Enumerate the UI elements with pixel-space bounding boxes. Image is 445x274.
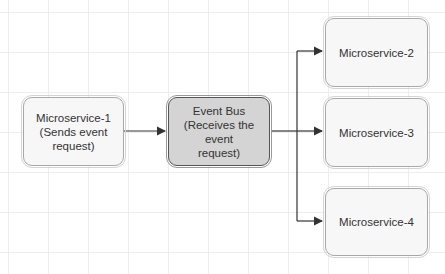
node-label: Event Bus (Receives the event request) <box>169 104 269 160</box>
node-label: Microservice-2 <box>339 46 414 60</box>
node-label: Microservice-4 <box>339 215 414 229</box>
node-microservice-2[interactable]: Microservice-2 <box>325 18 428 87</box>
node-label: Microservice-1 (Sends event request) <box>36 111 111 153</box>
node-event-bus[interactable]: Event Bus (Receives the event request) <box>168 97 270 166</box>
node-microservice-1[interactable]: Microservice-1 (Sends event request) <box>23 97 124 166</box>
node-microservice-4[interactable]: Microservice-4 <box>325 188 428 256</box>
node-microservice-3[interactable]: Microservice-3 <box>325 98 428 167</box>
node-label: Microservice-3 <box>339 126 414 140</box>
